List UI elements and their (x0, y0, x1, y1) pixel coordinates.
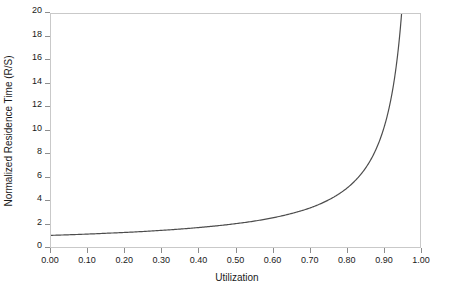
x-axis-tick-label: 0.00 (41, 256, 59, 265)
y-axis-tick-label: 8 (37, 147, 42, 156)
x-axis-tick-label: 0.70 (301, 256, 319, 265)
x-axis-tick-label: 0.90 (375, 256, 393, 265)
x-axis-tick-mark (273, 248, 274, 253)
y-axis-tick-label: 10 (32, 124, 42, 133)
x-axis-tick-mark (124, 248, 125, 253)
x-axis-tick-mark (198, 248, 199, 253)
x-axis-tick-label: 1.00 (412, 256, 430, 265)
x-axis-tick-label: 0.10 (78, 256, 96, 265)
y-axis-tick-label: 6 (37, 171, 42, 180)
residence-time-curve (51, 14, 402, 235)
chart-container: Normalized Residence Time (R/S) 02468101… (0, 0, 450, 298)
y-axis-tick-label: 2 (37, 218, 42, 227)
x-axis-tick-label: 0.50 (227, 256, 245, 265)
y-axis-tick-label: 20 (32, 6, 42, 15)
x-axis-tick-mark (50, 248, 51, 253)
x-axis-title: Utilization (0, 272, 450, 284)
x-axis-tick-mark (347, 248, 348, 253)
y-axis-tick-label: 4 (37, 194, 42, 203)
x-axis-tick-mark (384, 248, 385, 253)
x-axis-tick-mark (310, 248, 311, 253)
x-axis-tick-mark (236, 248, 237, 253)
x-axis-tick-label: 0.80 (338, 256, 356, 265)
x-axis-tick-mark (161, 248, 162, 253)
x-axis-tick-mark (421, 248, 422, 253)
x-axis-tick-label: 0.20 (115, 256, 133, 265)
y-axis-tick-label: 16 (32, 53, 42, 62)
y-axis-tick-label: 12 (32, 100, 42, 109)
x-axis-tick-label: 0.60 (264, 256, 282, 265)
plot-area (50, 13, 421, 248)
x-axis-title-label: Utilization (215, 272, 258, 284)
x-axis-tick-label: 0.30 (153, 256, 171, 265)
x-axis-tick-label: 0.40 (190, 256, 208, 265)
x-axis-tick-mark (87, 248, 88, 253)
y-axis-tick-label: 18 (32, 30, 42, 39)
data-curve-svg (51, 14, 420, 247)
y-axis-tick-label: 14 (32, 77, 42, 86)
